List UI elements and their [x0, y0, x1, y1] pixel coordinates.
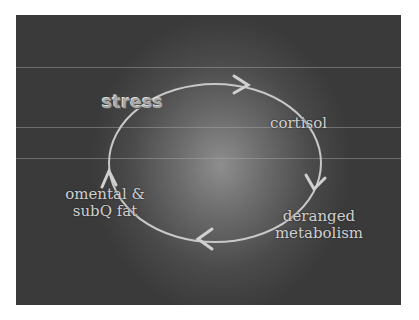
arrow-head-icon	[198, 229, 212, 249]
node-label-line: subQ fat	[60, 203, 150, 220]
node-omental-subq-fat: omental & subQ fat	[60, 186, 150, 220]
node-deranged-metabolism: deranged metabolism	[274, 208, 364, 242]
arrow-head-icon	[306, 175, 325, 189]
node-stress: stress	[102, 92, 163, 112]
arrow-head-icon	[234, 76, 248, 93]
node-label-line: deranged	[274, 208, 364, 225]
slide: stress cortisol deranged metabolism omen…	[16, 15, 401, 305]
node-label-line: metabolism	[274, 225, 364, 242]
cycle-diagram	[16, 15, 401, 305]
node-cortisol: cortisol	[270, 115, 327, 132]
node-label-line: omental &	[60, 186, 150, 203]
